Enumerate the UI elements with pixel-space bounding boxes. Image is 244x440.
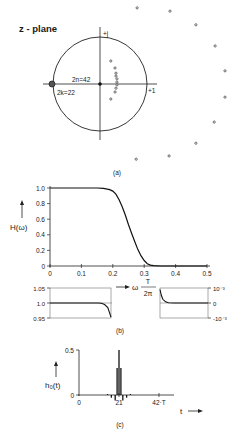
y-tick-label: 0.2 <box>36 247 45 254</box>
x-axis-label-group: ω T 2π ω T/2π <box>0 0 156 297</box>
outer-poles <box>135 7 226 161</box>
ylabel-group: h₀(t) <box>45 361 61 390</box>
pole-marker <box>136 7 138 9</box>
passband-y-ticks: 0.951.01.05 <box>33 286 50 322</box>
pole-marker <box>115 87 117 89</box>
pole-marker <box>116 78 118 80</box>
x-tick-label: 0.3 <box>140 270 149 277</box>
pole-marker <box>116 81 118 83</box>
y-tick-label: 0 <box>213 301 217 307</box>
x-tick-label: 0.4 <box>171 270 180 277</box>
y-tick-label: 1.05 <box>33 286 45 292</box>
pole-marker <box>195 142 197 144</box>
impulse-response-panel: 00.5 02142·T h₀(t) t (c) <box>45 347 203 430</box>
x-tick-label: 0 <box>77 399 81 406</box>
y-ticks: 00.20.40.60.81.0 <box>36 185 50 270</box>
ylabel-group: H(ω) <box>10 200 28 232</box>
y-tick-label: 0.5 <box>65 347 74 354</box>
y-tick-label: 10⁻³ <box>213 286 225 292</box>
omega-symbol: ω <box>132 283 138 292</box>
caption-b: (b) <box>116 327 124 335</box>
y-tick-label: 0 <box>41 263 45 270</box>
origin-point <box>98 82 102 86</box>
x-tick-label: 42·T <box>152 399 165 406</box>
y-tick-label: 0.6 <box>36 216 45 223</box>
y-ticks: 00.5 <box>65 347 79 399</box>
right-arrow-head-icon <box>198 409 203 413</box>
pole-marker <box>224 96 226 98</box>
y-tick-label: -10⁻³ <box>213 316 227 322</box>
pole-marker <box>114 91 116 93</box>
x-tick-label: 0.2 <box>108 270 117 277</box>
inner-poles <box>110 60 118 100</box>
t-axis-label-group: t <box>180 407 203 416</box>
impulse-bars <box>108 350 131 400</box>
zero-annotation: 2k=22 <box>57 89 75 96</box>
up-arrow-head-icon <box>20 200 24 205</box>
z-plane-panel: z - plane +j +1 2n=42 2k=22 (a) <box>19 7 226 177</box>
up-arrow-head-icon <box>54 361 58 366</box>
passband-detail: 0.951.01.05 <box>33 286 112 322</box>
magnitude-response-panel: 00.20.40.60.81.0 00.10.20.30.40.5 H(ω) 0… <box>0 0 227 335</box>
pole-marker <box>114 67 116 69</box>
pole-marker <box>110 98 112 100</box>
y-tick-label: 0.8 <box>36 200 45 207</box>
y-tick-label: 0.95 <box>33 316 45 322</box>
x-tick-label: 0.5 <box>202 270 211 277</box>
pole-marker <box>195 24 197 26</box>
stopband-detail: -10⁻³010⁻³ <box>160 286 227 322</box>
imag-axis-label: +j <box>103 30 108 38</box>
stopband-y-ticks: -10⁻³010⁻³ <box>208 286 227 322</box>
pole-marker <box>110 60 112 62</box>
x-axis-label: ω T/2π <box>0 0 51 3</box>
real-axis-label: +1 <box>148 87 156 94</box>
pole-marker <box>135 158 137 160</box>
passband-curve <box>50 303 111 317</box>
pole-marker <box>213 121 215 123</box>
pole-marker <box>169 10 171 12</box>
x-tick-label: 21 <box>115 399 123 406</box>
pole-marker <box>115 75 117 77</box>
y-tick-label: 1.0 <box>37 301 46 307</box>
x-tick-label: 0.1 <box>77 270 86 277</box>
pole-marker <box>214 45 216 47</box>
z-plane-title: z - plane <box>19 23 57 34</box>
pole-marker <box>115 72 117 74</box>
y-tick-label: 1.0 <box>36 185 45 192</box>
pole-marker <box>224 70 226 72</box>
caption-a: (a) <box>113 169 121 177</box>
x-tick-label: 0 <box>48 270 52 277</box>
h0-label: h₀(t) <box>45 381 61 390</box>
fraction-denominator: 2π <box>144 290 153 297</box>
pole-marker <box>168 155 170 157</box>
h-omega-label: H(ω) <box>10 223 28 232</box>
pole-marker <box>116 84 118 86</box>
zero-cluster-marker <box>49 81 55 87</box>
origin-annotation: 2n=42 <box>72 76 91 83</box>
right-arrow-head-icon <box>125 285 130 289</box>
fraction-numerator: T <box>146 278 151 285</box>
y-tick-label: 0.4 <box>36 231 45 238</box>
stopband-curve <box>160 290 208 304</box>
y-tick-label: 0 <box>70 392 74 399</box>
magnitude-curve <box>50 188 207 266</box>
caption-c: (c) <box>116 421 124 429</box>
figure: z - plane +j +1 2n=42 2k=22 (a) 00.20.40… <box>0 0 244 440</box>
t-label: t <box>180 407 183 416</box>
